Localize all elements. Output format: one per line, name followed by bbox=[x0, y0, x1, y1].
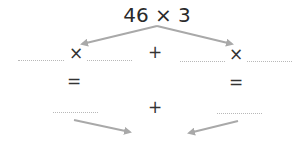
blank-left-product[interactable] bbox=[53, 112, 98, 113]
arrows-diagram bbox=[0, 0, 296, 145]
blank-left-factor-2[interactable] bbox=[87, 60, 132, 61]
plus-sign-bottom: + bbox=[148, 99, 162, 116]
plus-sign-top: + bbox=[148, 44, 162, 61]
blank-right-factor-1[interactable] bbox=[180, 61, 225, 62]
blank-left-factor-1[interactable] bbox=[18, 60, 64, 61]
split-arrow-left-icon bbox=[82, 26, 157, 44]
blank-right-factor-2[interactable] bbox=[247, 61, 292, 62]
equals-sign-left: = bbox=[67, 73, 81, 90]
times-sign-left: × bbox=[69, 45, 83, 62]
blank-right-product[interactable] bbox=[217, 113, 262, 114]
combine-arrow-left-icon bbox=[74, 120, 130, 132]
equals-sign-right: = bbox=[229, 74, 243, 91]
combine-arrow-right-icon bbox=[189, 121, 238, 133]
split-arrow-right-icon bbox=[157, 26, 232, 44]
times-sign-right: × bbox=[229, 46, 243, 63]
